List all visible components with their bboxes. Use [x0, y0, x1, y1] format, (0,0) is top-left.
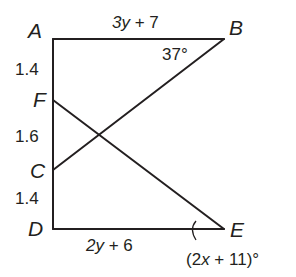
angle-label-E-var: x — [200, 250, 210, 269]
segment-FE — [53, 100, 224, 229]
angle-label-E-rest: + 11)° — [210, 250, 259, 269]
length-label-AB-rest: + 7 — [130, 13, 159, 32]
length-label-AF: 1.4 — [15, 60, 39, 79]
angle-label-E-open: (2 — [186, 250, 201, 269]
angle-label-E: (2x + 11)° — [186, 250, 259, 269]
geometry-diagram: A B F C D E 3y + 7 2y + 6 1.4 1.6 1.4 37… — [0, 0, 296, 277]
diagram-canvas: A B F C D E 3y + 7 2y + 6 1.4 1.6 1.4 37… — [0, 0, 296, 277]
length-label-DE-rest: + 6 — [104, 236, 133, 255]
length-label-DE: 2y + 6 — [85, 236, 133, 255]
length-label-FC: 1.6 — [15, 127, 39, 146]
point-label-D: D — [28, 217, 43, 240]
segment-BC — [53, 39, 224, 170]
length-label-DE-var: 2y — [85, 236, 105, 255]
length-label-CD: 1.4 — [15, 189, 39, 208]
point-label-E: E — [230, 218, 245, 241]
angle-arc-E — [193, 221, 197, 240]
point-label-C: C — [30, 159, 46, 182]
length-label-AB: 3y + 7 — [112, 13, 159, 32]
point-label-B: B — [229, 16, 243, 39]
angle-label-B: 37° — [162, 45, 188, 64]
point-label-F: F — [33, 88, 47, 111]
point-label-A: A — [26, 19, 42, 42]
length-label-AB-var: 3y — [112, 13, 131, 32]
